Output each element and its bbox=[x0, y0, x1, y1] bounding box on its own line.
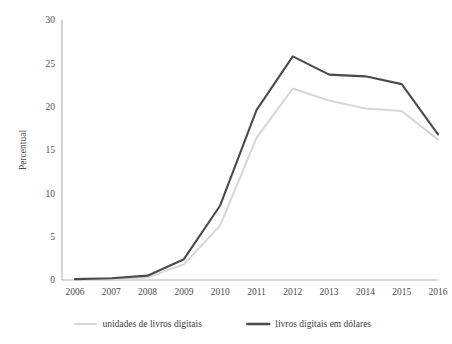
line-chart: Percentual 051015202530 2006200720082009… bbox=[0, 0, 452, 344]
series-line bbox=[75, 56, 438, 279]
x-tick-label: 2008 bbox=[138, 287, 157, 297]
y-tick-label: 30 bbox=[46, 15, 56, 25]
y-tick-label: 20 bbox=[46, 102, 56, 112]
x-tick-label: 2006 bbox=[66, 287, 85, 297]
series-line bbox=[75, 88, 438, 279]
x-tick-label: 2015 bbox=[392, 287, 411, 297]
x-axis-ticks: 2006200720082009201020112012201320142015… bbox=[66, 287, 448, 297]
legend-label: livros digitais em dólares bbox=[275, 319, 371, 329]
legend-label: unidades de livros digitais bbox=[102, 319, 202, 329]
y-tick-label: 10 bbox=[46, 189, 56, 199]
chart-container: Percentual 051015202530 2006200720082009… bbox=[0, 0, 452, 344]
x-tick-label: 2016 bbox=[429, 287, 448, 297]
y-tick-label: 0 bbox=[50, 275, 55, 285]
y-axis-ticks: 051015202530 bbox=[46, 15, 56, 285]
x-tick-label: 2007 bbox=[102, 287, 121, 297]
x-tick-label: 2009 bbox=[174, 287, 193, 297]
data-series-group bbox=[75, 56, 438, 279]
x-tick-label: 2010 bbox=[211, 287, 230, 297]
chart-legend: unidades de livros digitaislivros digita… bbox=[74, 319, 371, 329]
y-tick-label: 25 bbox=[46, 59, 56, 69]
y-axis-title: Percentual bbox=[18, 130, 28, 170]
x-tick-label: 2014 bbox=[356, 287, 375, 297]
y-tick-label: 15 bbox=[46, 145, 56, 155]
x-tick-label: 2011 bbox=[247, 287, 266, 297]
y-tick-label: 5 bbox=[50, 232, 55, 242]
x-tick-label: 2013 bbox=[320, 287, 339, 297]
y-axis-title-label: Percentual bbox=[18, 130, 28, 170]
x-tick-label: 2012 bbox=[283, 287, 302, 297]
axis-lines bbox=[62, 20, 438, 280]
